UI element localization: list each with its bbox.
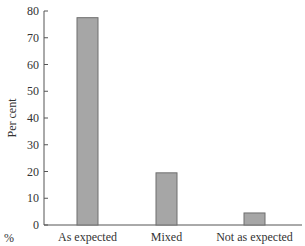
y-axis: 01020304050607080: [27, 4, 48, 232]
unit-label: %: [4, 231, 14, 245]
x-axis: As expectedMixedNot as expected: [44, 225, 302, 244]
y-tick-label: 30: [27, 138, 39, 152]
y-tick-label: 0: [33, 218, 39, 232]
bar: [244, 213, 265, 225]
y-tick-label: 10: [27, 191, 39, 205]
y-tick-label: 60: [27, 58, 39, 72]
x-category-label: As expected: [58, 230, 117, 244]
bar: [156, 173, 177, 225]
y-tick-label: 80: [27, 4, 39, 18]
x-category-label: Mixed: [151, 230, 182, 244]
bars: [77, 18, 265, 225]
y-axis-title: Per cent: [5, 98, 19, 138]
y-tick-label: 70: [27, 31, 39, 45]
y-tick-label: 20: [27, 165, 39, 179]
bar: [77, 18, 98, 225]
y-tick-label: 40: [27, 111, 39, 125]
bar-chart: 01020304050607080 As expectedMixedNot as…: [0, 0, 305, 246]
y-tick-label: 50: [27, 84, 39, 98]
x-category-label: Not as expected: [216, 230, 293, 244]
